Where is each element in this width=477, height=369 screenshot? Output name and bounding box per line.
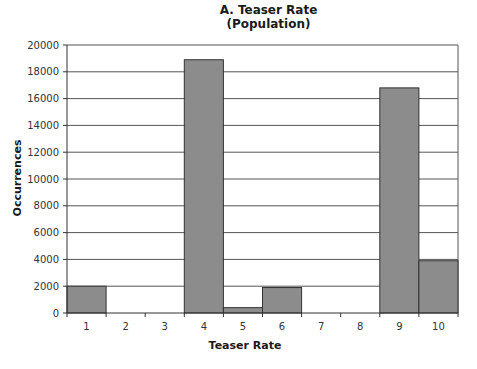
bar-10 xyxy=(419,261,458,313)
bar-4 xyxy=(184,60,223,313)
bar-1 xyxy=(67,286,106,313)
y-tick-label: 14000 xyxy=(27,120,59,131)
bar-9 xyxy=(380,88,419,313)
x-tick-label: 9 xyxy=(396,321,402,332)
y-tick-label: 18000 xyxy=(27,66,59,77)
x-tick-label: 3 xyxy=(162,321,168,332)
y-axis-ticks: 0200040006000800010000120001400016000180… xyxy=(27,40,67,319)
x-tick-label: 6 xyxy=(279,321,285,332)
x-tick-label: 7 xyxy=(318,321,324,332)
y-tick-label: 16000 xyxy=(27,93,59,104)
x-axis-label: Teaser Rate xyxy=(209,339,282,352)
y-tick-label: 8000 xyxy=(34,200,59,211)
x-tick-label: 8 xyxy=(357,321,363,332)
y-tick-label: 4000 xyxy=(34,254,59,265)
x-tick-label: 2 xyxy=(122,321,128,332)
y-tick-label: 12000 xyxy=(27,147,59,158)
x-tick-label: 5 xyxy=(240,321,246,332)
y-tick-label: 2000 xyxy=(34,281,59,292)
y-tick-label: 20000 xyxy=(27,40,59,51)
bar-chart: 0200040006000800010000120001400016000180… xyxy=(0,0,477,369)
x-tick-label: 1 xyxy=(83,321,89,332)
y-axis-label: Occurrences xyxy=(11,139,24,216)
y-tick-label: 0 xyxy=(53,308,59,319)
bars xyxy=(67,60,458,313)
bar-5 xyxy=(223,308,262,313)
x-axis-ticks: 12345678910 xyxy=(67,313,458,332)
x-tick-label: 10 xyxy=(432,321,445,332)
y-tick-label: 6000 xyxy=(34,227,59,238)
bar-6 xyxy=(263,288,302,313)
x-tick-label: 4 xyxy=(201,321,207,332)
y-tick-label: 10000 xyxy=(27,174,59,185)
